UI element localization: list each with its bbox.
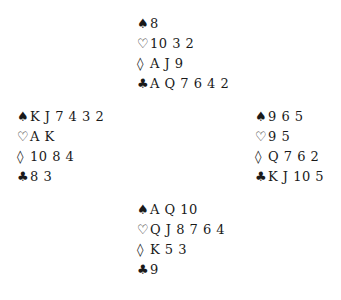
west-clubs: ♣8 3 <box>17 167 104 187</box>
east-diamonds-cards: Q 7 6 2 <box>268 149 319 164</box>
west-hearts: ♡A K <box>17 127 104 147</box>
south-diamonds-cards: K 5 3 <box>150 242 187 257</box>
spade-icon: ♠ <box>17 107 30 127</box>
north-hand: ♠8 ♡10 3 2 ◊A J 9 ♣A Q 7 6 4 2 <box>137 14 229 94</box>
south-clubs: ♣9 <box>137 260 225 280</box>
spade-icon: ♠ <box>137 200 150 220</box>
east-clubs: ♣K J 10 5 <box>255 167 324 187</box>
heart-icon: ♡ <box>137 220 150 240</box>
south-spades: ♠A Q 10 <box>137 200 225 220</box>
club-icon: ♣ <box>255 167 268 187</box>
heart-icon: ♡ <box>255 127 268 147</box>
south-hearts-cards: Q J 8 7 6 4 <box>150 222 225 237</box>
north-diamonds-cards: A J 9 <box>150 56 184 71</box>
east-diamonds: ◊Q 7 6 2 <box>255 147 324 167</box>
north-spades-cards: 8 <box>150 16 159 31</box>
north-hearts-cards: 10 3 2 <box>150 36 194 51</box>
south-hand: ♠A Q 10 ♡Q J 8 7 6 4 ◊K 5 3 ♣9 <box>137 200 225 280</box>
south-hearts: ♡Q J 8 7 6 4 <box>137 220 225 240</box>
north-spades: ♠8 <box>137 14 229 34</box>
heart-icon: ♡ <box>17 127 30 147</box>
west-clubs-cards: 8 3 <box>30 169 52 184</box>
spade-icon: ♠ <box>255 107 268 127</box>
club-icon: ♣ <box>17 167 30 187</box>
spade-icon: ♠ <box>137 14 150 34</box>
west-hearts-cards: A K <box>30 129 55 144</box>
west-spades-cards: K J 7 4 3 2 <box>30 109 104 124</box>
east-hearts: ♡9 5 <box>255 127 324 147</box>
west-diamonds: ◊10 8 4 <box>17 147 104 167</box>
south-spades-cards: A Q 10 <box>150 202 198 217</box>
east-spades-cards: 9 6 5 <box>268 109 304 124</box>
north-hearts: ♡10 3 2 <box>137 34 229 54</box>
east-hand: ♠9 6 5 ♡9 5 ◊Q 7 6 2 ♣K J 10 5 <box>255 107 324 187</box>
club-icon: ♣ <box>137 74 150 94</box>
west-diamonds-cards: 10 8 4 <box>30 149 74 164</box>
club-icon: ♣ <box>137 260 150 280</box>
diamond-icon: ◊ <box>137 54 150 74</box>
east-clubs-cards: K J 10 5 <box>268 169 324 184</box>
diamond-icon: ◊ <box>17 147 30 167</box>
diamond-icon: ◊ <box>137 240 150 260</box>
north-clubs: ♣A Q 7 6 4 2 <box>137 74 229 94</box>
west-hand: ♠K J 7 4 3 2 ♡A K ◊10 8 4 ♣8 3 <box>17 107 104 187</box>
east-spades: ♠9 6 5 <box>255 107 324 127</box>
south-diamonds: ◊K 5 3 <box>137 240 225 260</box>
south-clubs-cards: 9 <box>150 262 159 277</box>
west-spades: ♠K J 7 4 3 2 <box>17 107 104 127</box>
east-hearts-cards: 9 5 <box>268 129 290 144</box>
north-diamonds: ◊A J 9 <box>137 54 229 74</box>
diamond-icon: ◊ <box>255 147 268 167</box>
heart-icon: ♡ <box>137 34 150 54</box>
north-clubs-cards: A Q 7 6 4 2 <box>150 76 229 91</box>
